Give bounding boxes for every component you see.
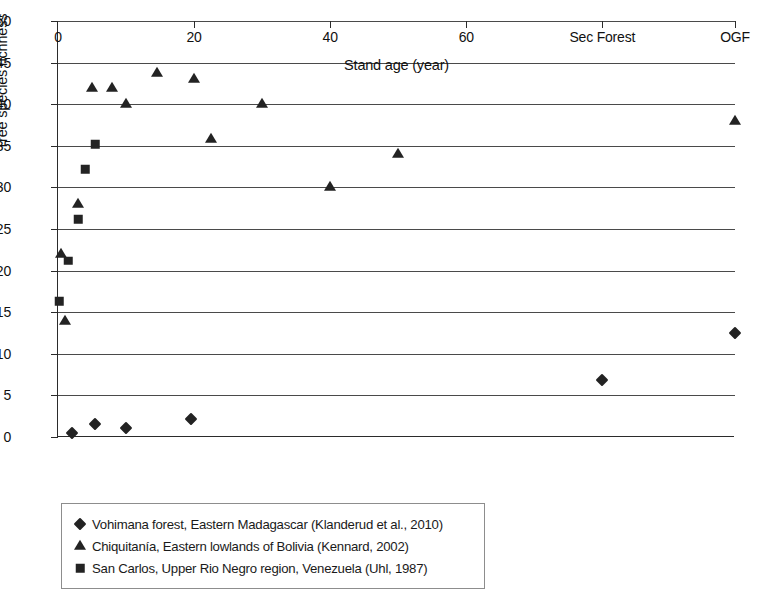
legend-item[interactable]: San Carlos, Upper Rio Negro region, Vene… (72, 557, 472, 579)
data-point-diamond (729, 327, 742, 340)
x-axis-tick-label: Sec Forest (569, 30, 635, 45)
data-point-triangle (256, 98, 268, 108)
data-point-diamond (89, 417, 102, 430)
y-axis-tick (51, 395, 58, 396)
legend-marker-diamond-icon (72, 514, 92, 534)
plot-area: 05101520253035404550 0204060Sec ForestOG… (57, 21, 734, 437)
data-point-square (91, 140, 100, 149)
triangle-icon (74, 540, 86, 550)
data-point-square (64, 256, 73, 265)
y-axis-tick-label: 5 (0, 388, 11, 402)
y-axis-tick-label: 45 (0, 56, 11, 70)
gridline (58, 354, 735, 355)
gridline (58, 146, 735, 147)
data-point-square (74, 215, 83, 224)
y-axis-tick (51, 312, 58, 313)
y-axis-tick (51, 354, 58, 355)
square-icon (76, 564, 85, 573)
legend-item-label: San Carlos, Upper Rio Negro region, Vene… (92, 561, 427, 576)
data-point-square (81, 165, 90, 174)
y-axis-tick-label: 35 (0, 139, 11, 153)
gridline (58, 104, 735, 105)
gridline (58, 229, 735, 230)
legend-item-label: Vohimana forest, Eastern Madagascar (Kla… (92, 517, 443, 532)
scatter-chart-figure: Tree species richness 051015202530354045… (0, 0, 777, 607)
x-axis-tick (330, 21, 331, 28)
x-axis-tick-label: 40 (323, 30, 338, 45)
x-axis-tick (194, 21, 195, 28)
y-axis-tick (51, 21, 58, 22)
legend-marker-square-icon (72, 558, 92, 578)
gridline (58, 312, 735, 313)
data-point-triangle (392, 148, 404, 158)
data-point-triangle (120, 98, 132, 108)
data-point-triangle (106, 81, 118, 91)
x-axis-tick (735, 21, 736, 28)
y-axis-tick-label: 30 (0, 180, 11, 194)
data-point-triangle (205, 133, 217, 143)
data-point-square (55, 297, 64, 306)
data-point-triangle (729, 115, 741, 125)
diamond-icon (74, 518, 87, 531)
y-axis-tick-label: 40 (0, 97, 11, 111)
x-axis-tick-label: 0 (54, 30, 62, 45)
data-point-diamond (184, 412, 197, 425)
y-axis-tick (51, 146, 58, 147)
legend-item[interactable]: Vohimana forest, Eastern Madagascar (Kla… (72, 513, 472, 535)
data-point-diamond (65, 426, 78, 439)
y-axis-tick (51, 104, 58, 105)
x-axis-tick-label: 20 (186, 30, 201, 45)
legend-item[interactable]: Chiquitanía, Eastern lowlands of Bolivia… (72, 535, 472, 557)
data-point-triangle (86, 81, 98, 91)
y-axis-tick (51, 437, 58, 438)
x-axis-tick (466, 21, 467, 28)
y-axis-tick-label: 10 (0, 347, 11, 361)
data-point-diamond (596, 374, 609, 387)
gridline (58, 271, 735, 272)
x-axis-tick-label: 60 (459, 30, 474, 45)
x-axis-tick (602, 21, 603, 28)
x-axis-tick-label: OGF (720, 30, 750, 45)
y-axis-tick (51, 63, 58, 64)
legend: Vohimana forest, Eastern Madagascar (Kla… (61, 503, 485, 589)
y-axis-tick (51, 229, 58, 230)
y-axis-tick-label: 0 (0, 430, 11, 444)
y-axis-tick-label: 20 (0, 264, 11, 278)
data-point-triangle (324, 181, 336, 191)
gridline (58, 21, 735, 22)
y-axis-tick-label: 15 (0, 305, 11, 319)
data-point-triangle (59, 314, 71, 324)
data-point-triangle (72, 198, 84, 208)
x-axis-title: Stand age (year) (58, 57, 735, 73)
y-axis-tick (51, 271, 58, 272)
legend-marker-triangle-icon (72, 536, 92, 556)
data-point-triangle (188, 73, 200, 83)
y-axis-tick-label: 50 (0, 14, 11, 28)
gridline (58, 187, 735, 188)
data-point-diamond (120, 421, 133, 434)
y-axis-tick-label: 25 (0, 222, 11, 236)
legend-item-label: Chiquitanía, Eastern lowlands of Bolivia… (92, 539, 409, 554)
y-axis-tick (51, 187, 58, 188)
gridline (58, 395, 735, 396)
